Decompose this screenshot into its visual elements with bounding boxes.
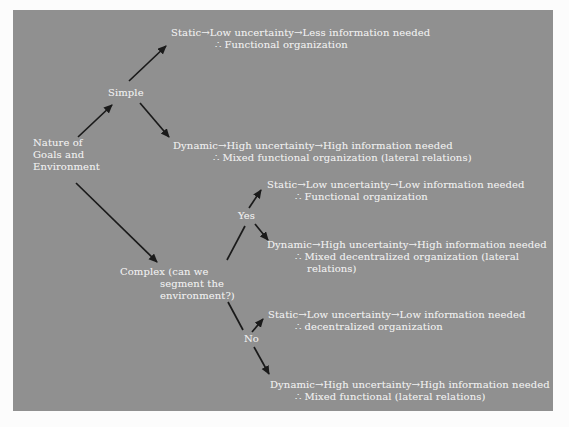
outcome-yes-dynamic-line: relations) bbox=[307, 263, 547, 275]
outcome-no-static-line: ∴ decentralized organization bbox=[295, 321, 526, 333]
node-yes-line: Yes bbox=[238, 210, 255, 222]
outcome-yes-dynamic: Dynamic→High uncertainty→High informatio… bbox=[267, 239, 547, 275]
outcome-simple-static: Static→Low uncertainty→Less information … bbox=[171, 27, 430, 51]
node-simple: Simple bbox=[108, 87, 144, 99]
outcome-no-dynamic-line: ∴ Mixed functional (lateral relations) bbox=[295, 391, 550, 403]
arrow-yes-to-static bbox=[249, 190, 261, 208]
outcome-yes-static-line: Static→Low uncertainty→Low information n… bbox=[267, 179, 525, 191]
node-complex-line: environment?) bbox=[160, 290, 235, 302]
node-nature-of-goals-line: Goals and bbox=[33, 149, 100, 161]
outcome-simple-dynamic: Dynamic→High uncertainty→High informatio… bbox=[173, 140, 472, 164]
arrow-nature-to-simple bbox=[78, 105, 112, 137]
node-no-line: No bbox=[244, 333, 259, 345]
outcome-no-dynamic-line: Dynamic→High uncertainty→High informatio… bbox=[270, 379, 550, 391]
arrow-simple-to-static bbox=[129, 46, 166, 81]
outcome-simple-dynamic-line: Dynamic→High uncertainty→High informatio… bbox=[173, 140, 472, 152]
outcome-no-static-line: Static→Low uncertainty→Low information n… bbox=[268, 309, 526, 321]
outcome-simple-static-line: ∴ Functional organization bbox=[215, 39, 430, 51]
outcome-no-dynamic: Dynamic→High uncertainty→High informatio… bbox=[270, 379, 550, 403]
node-yes: Yes bbox=[238, 210, 255, 222]
figure-canvas: Nature ofGoals andEnvironmentSimpleCompl… bbox=[0, 0, 569, 427]
outcome-simple-dynamic-line: ∴ Mixed functional organization (lateral… bbox=[213, 152, 472, 164]
arrow-nature-to-complex bbox=[76, 183, 157, 262]
line-complex-to-no bbox=[228, 302, 243, 330]
arrow-no-to-static bbox=[252, 319, 263, 332]
node-simple-line: Simple bbox=[108, 87, 144, 99]
node-nature-of-goals-line: Environment bbox=[33, 161, 100, 173]
node-complex: Complex (can wesegment theenvironment?) bbox=[120, 266, 235, 302]
outcome-yes-dynamic-line: ∴ Mixed decentralized organization (late… bbox=[295, 251, 547, 263]
node-nature-of-goals-line: Nature of bbox=[33, 137, 100, 149]
node-complex-line: Complex (can we bbox=[120, 266, 235, 278]
outcome-yes-static: Static→Low uncertainty→Low information n… bbox=[267, 179, 525, 203]
outcome-yes-static-line: ∴ Functional organization bbox=[295, 191, 525, 203]
node-complex-line: segment the bbox=[160, 278, 235, 290]
arrow-yes-to-dynamic bbox=[255, 224, 268, 240]
node-no: No bbox=[244, 333, 259, 345]
line-complex-to-yes bbox=[227, 226, 245, 260]
diagram-arrows bbox=[0, 0, 569, 427]
outcome-simple-static-line: Static→Low uncertainty→Less information … bbox=[171, 27, 430, 39]
arrow-simple-to-dynamic bbox=[140, 103, 169, 137]
node-nature-of-goals: Nature ofGoals andEnvironment bbox=[33, 137, 100, 173]
outcome-no-static: Static→Low uncertainty→Low information n… bbox=[268, 309, 526, 333]
arrow-no-to-dynamic bbox=[254, 347, 269, 374]
outcome-yes-dynamic-line: Dynamic→High uncertainty→High informatio… bbox=[267, 239, 547, 251]
